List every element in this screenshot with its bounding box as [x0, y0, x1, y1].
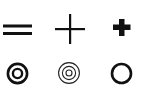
equals-icon: [3, 24, 33, 36]
double-ring-icon: [6, 62, 29, 85]
bold-plus-icon: [113, 19, 131, 36]
circle-icon: [110, 62, 133, 85]
concentric-rings-icon: [57, 61, 81, 85]
thin-cross-icon: [55, 14, 86, 45]
